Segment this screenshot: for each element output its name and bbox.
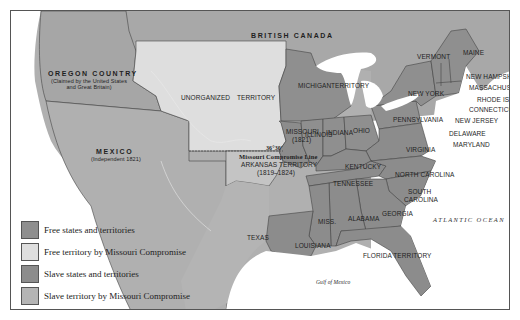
map-legend: Free states and territories Free territo…: [21, 219, 190, 307]
legend-item-free-compromise: Free territory by Missouri Compromise: [21, 241, 190, 263]
label-georgia: GEORGIA: [382, 211, 413, 218]
missouri-compromise-map: BRITISH CANADA OREGON COUNTRY (Claimed b…: [10, 10, 510, 310]
legend-item-free: Free states and territories: [21, 219, 190, 241]
label-texas: TEXAS: [247, 235, 269, 242]
label-new-york: NEW YORK: [408, 91, 444, 98]
label-maine: MAINE: [463, 50, 484, 57]
label-oregon-country: OREGON COUNTRY: [48, 70, 138, 77]
label-unorganized: UNORGANIZED: [181, 95, 230, 102]
label-alabama: ALABAMA: [348, 216, 379, 223]
label-tennessee: TENNESSEE: [333, 181, 373, 188]
label-pennsylvania: PENNSYLVANIA: [393, 117, 443, 124]
label-north-carolina: NORTH CAROLINA: [395, 172, 454, 179]
legend-swatch-free: [21, 221, 39, 239]
label-south-carolina: SOUTH: [408, 189, 431, 196]
label-mexico: MEXICO: [96, 148, 133, 155]
legend-swatch-free-compromise: [21, 243, 39, 261]
label-oregon-note: (Claimed by the United States and Great …: [48, 79, 130, 91]
legend-item-slave: Slave states and territories: [21, 263, 190, 285]
label-compromise-line: Missouri Compromise Line: [239, 154, 317, 161]
label-delaware: DELAWARE: [449, 131, 486, 138]
label-latitude: 36°30': [266, 145, 283, 151]
legend-item-slave-compromise: Slave territory by Missouri Compromise: [21, 285, 190, 307]
label-indiana: INDIANA: [326, 130, 353, 137]
label-atlantic-ocean: ATLANTIC OCEAN: [433, 217, 505, 224]
label-territory: TERRITORY: [237, 95, 275, 102]
legend-label: Slave territory by Missouri Compromise: [44, 291, 190, 301]
label-vermont: VERMONT: [417, 54, 450, 61]
label-arkansas: ARKANSAS TERRITORY: [241, 162, 317, 169]
label-arkansas-years: (1819–1824): [257, 170, 295, 177]
label-mexico-note: (Independent 1821): [91, 157, 141, 163]
label-massachusetts: MASSACHUSETTS: [469, 85, 510, 92]
legend-swatch-slave-compromise: [21, 287, 39, 305]
legend-label: Free states and territories: [44, 225, 135, 235]
label-louisiana: LOUISIANA: [295, 243, 331, 250]
legend-swatch-slave: [21, 265, 39, 283]
label-new-hampshire: NEW HAMPSHIRE: [466, 74, 510, 81]
label-florida: FLORIDA TERRITORY: [363, 253, 432, 260]
label-virginia: VIRGINIA: [406, 147, 435, 154]
legend-label: Slave states and territories: [44, 269, 139, 279]
label-new-jersey: NEW JERSEY: [455, 118, 498, 125]
label-rhode-island: RHODE ISLAND: [477, 97, 510, 104]
label-michigan-territory: TERRITORY: [331, 83, 369, 90]
label-gulf-of-mexico: Gulf of Mexico: [316, 280, 350, 286]
label-ohio: OHIO: [353, 128, 370, 135]
label-connecticut: CONNECTICUT: [469, 107, 510, 114]
label-maryland: MARYLAND: [453, 142, 490, 149]
label-south-carolina-2: CAROLINA: [404, 197, 438, 204]
label-kentucky: KENTUCKY: [345, 164, 381, 171]
label-british-canada: BRITISH CANADA: [251, 32, 334, 39]
legend-label: Free territory by Missouri Compromise: [44, 247, 186, 257]
label-michigan: MICHIGAN: [298, 83, 331, 90]
label-mississippi: MISS.: [318, 219, 336, 226]
